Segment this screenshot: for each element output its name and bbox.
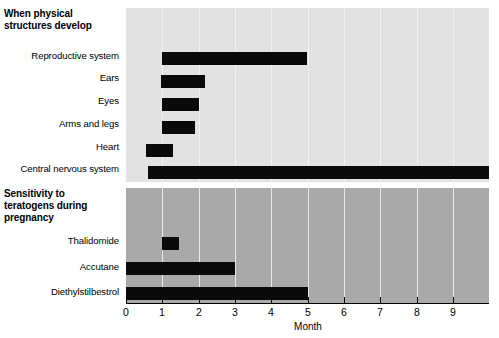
x-tick-label-6: 6 bbox=[334, 306, 354, 318]
row-label-reproductive-system: Reproductive system bbox=[1, 50, 119, 61]
row-label-eyes: Eyes bbox=[1, 95, 119, 106]
x-tick-label-0: 0 bbox=[116, 306, 136, 318]
gridline-6 bbox=[344, 8, 345, 303]
x-tick-label-2: 2 bbox=[189, 306, 209, 318]
x-tick-1 bbox=[162, 297, 163, 304]
x-tick-label-3: 3 bbox=[225, 306, 245, 318]
section-title-teratogen-sensitivity: Sensitivity to teratogens during pregnan… bbox=[4, 188, 120, 224]
x-tick-label-1: 1 bbox=[152, 306, 172, 318]
x-tick-2 bbox=[199, 297, 200, 304]
bar-eyes bbox=[162, 98, 199, 111]
bar-thalidomide bbox=[162, 237, 179, 250]
x-tick-8 bbox=[417, 297, 418, 304]
bar-ears bbox=[161, 75, 205, 88]
row-label-heart: Heart bbox=[1, 141, 119, 152]
bar-central-nervous-system bbox=[148, 166, 489, 179]
x-tick-6 bbox=[344, 297, 345, 304]
bar-heart bbox=[146, 144, 173, 157]
x-tick-5 bbox=[308, 297, 309, 304]
row-label-central-nervous-system: Central nervous system bbox=[1, 163, 119, 174]
section-title-physical-structures-line1: When physical bbox=[4, 8, 120, 20]
plot-area bbox=[126, 8, 489, 303]
gridline-9 bbox=[453, 8, 454, 303]
x-tick-label-5: 5 bbox=[298, 306, 318, 318]
x-tick-4 bbox=[271, 297, 272, 304]
row-label-thalidomide: Thalidomide bbox=[1, 235, 119, 246]
x-tick-9 bbox=[453, 297, 454, 304]
teratogen-timeline-chart: When physical structures develop Reprodu… bbox=[0, 0, 499, 338]
x-tick-0 bbox=[126, 297, 127, 304]
section-title-teratogen-sensitivity-line2: teratogens during bbox=[4, 200, 120, 212]
gridline-8 bbox=[417, 8, 418, 303]
x-tick-label-7: 7 bbox=[370, 306, 390, 318]
row-label-ears: Ears bbox=[1, 72, 119, 83]
label-column: When physical structures develop Reprodu… bbox=[0, 0, 122, 338]
row-label-arms-and-legs: Arms and legs bbox=[1, 118, 119, 129]
bar-diethylstilbestrol bbox=[126, 287, 308, 300]
row-label-diethylstilbestrol: Diethylstilbestrol bbox=[1, 286, 119, 297]
bar-accutane bbox=[126, 262, 235, 275]
gridline-5 bbox=[308, 8, 309, 303]
x-tick-label-8: 8 bbox=[407, 306, 427, 318]
bar-arms-and-legs bbox=[162, 121, 195, 134]
x-tick-label-4: 4 bbox=[261, 306, 281, 318]
x-tick-label-9: 9 bbox=[443, 306, 463, 318]
x-tick-3 bbox=[235, 297, 236, 304]
gridline-7 bbox=[380, 8, 381, 303]
section-title-teratogen-sensitivity-line3: pregnancy bbox=[4, 212, 120, 224]
row-label-accutane: Accutane bbox=[1, 261, 119, 272]
section-title-physical-structures-line2: structures develop bbox=[4, 20, 120, 32]
x-tick-7 bbox=[380, 297, 381, 304]
section-title-teratogen-sensitivity-line1: Sensitivity to bbox=[4, 188, 120, 200]
section-title-physical-structures: When physical structures develop bbox=[4, 8, 120, 32]
bar-reproductive-system bbox=[162, 52, 307, 65]
x-axis-title: Month bbox=[268, 321, 348, 332]
